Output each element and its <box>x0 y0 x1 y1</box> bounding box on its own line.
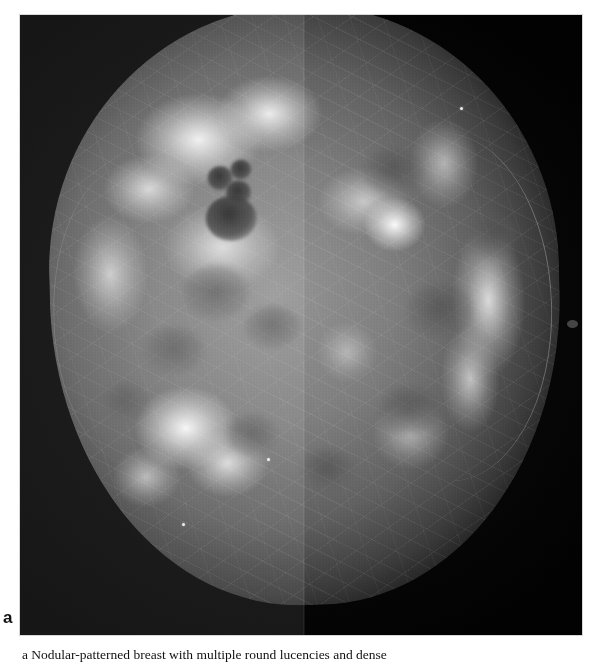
breast-silhouette <box>42 15 568 612</box>
mammogram-image <box>20 15 582 635</box>
film-edge-marker <box>567 320 578 328</box>
calcification-speck-3 <box>460 107 463 110</box>
calcification-speck-2 <box>267 458 270 461</box>
fibrous-strands <box>42 15 568 612</box>
figure-caption: a Nodular-patterned breast with multiple… <box>22 645 582 665</box>
calcification-speck-1 <box>182 523 185 526</box>
figure-panel-label: a <box>3 609 12 626</box>
